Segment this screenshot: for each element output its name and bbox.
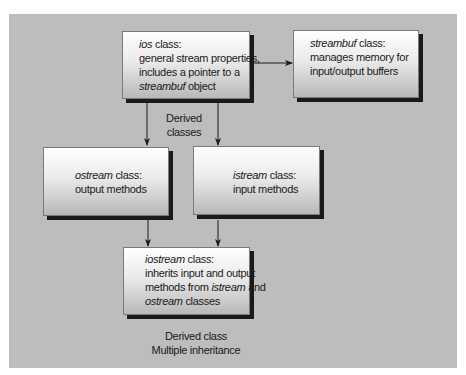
ios-desc-line: includes a pointer to a (139, 65, 260, 79)
derived-classes-label: Derived classes (160, 111, 208, 139)
ios-desc-line: general stream properties, (139, 51, 260, 65)
ios-desc-italic: streambuf (139, 80, 185, 92)
ios-desc-line: streambuf object (139, 79, 260, 93)
ostream-name: ostream (75, 169, 113, 181)
iostream-title: iostream class: (145, 252, 266, 266)
istream-name-suffix: class: (267, 169, 296, 181)
derived-classes-label-line: classes (160, 125, 208, 139)
streambuf-class-box: streambuf class: manages memory for inpu… (293, 30, 419, 98)
istream-name: istream (233, 169, 267, 181)
iostream-desc-italic: ostream (145, 295, 183, 307)
streambuf-name-suffix: class: (356, 37, 385, 49)
ostream-class-box: ostream class: output methods (43, 147, 169, 216)
streambuf-name: streambuf (310, 37, 356, 49)
ios-name: ios (139, 38, 152, 50)
bottom-label-line: Multiple inheritance (136, 343, 256, 357)
streambuf-desc-line: input/output buffers (310, 64, 409, 78)
iostream-desc-suffix: classes (183, 295, 220, 307)
ostream-desc-line: output methods (75, 182, 147, 196)
iostream-desc-italic: istream (211, 281, 245, 293)
iostream-name-suffix: class: (185, 253, 214, 265)
ios-desc-suffix: object (185, 80, 215, 92)
ios-name-suffix: class: (152, 38, 181, 50)
bottom-label-line: Derived class (136, 329, 256, 343)
iostream-name: iostream (145, 253, 185, 265)
iostream-desc-line: inherits input and output (145, 266, 266, 280)
multiple-inheritance-label: Derived class Multiple inheritance (136, 329, 256, 357)
ostream-title: ostream class: (75, 168, 147, 182)
streambuf-desc-line: manages memory for (310, 50, 409, 64)
istream-class-box: istream class: input methods (193, 146, 320, 215)
ios-class-box: ios class: general stream properties, in… (122, 31, 250, 99)
iostream-desc-line: ostream classes (145, 294, 266, 308)
iostream-desc-line: methods from istream and (145, 280, 266, 294)
istream-desc-line: input methods (233, 182, 298, 196)
ios-title: ios class: (139, 37, 260, 51)
iostream-class-box: iostream class: inherits input and outpu… (123, 247, 250, 315)
derived-classes-label-line: Derived (160, 111, 208, 125)
iostream-desc-prefix: methods from (145, 281, 211, 293)
istream-title: istream class: (233, 168, 298, 182)
streambuf-title: streambuf class: (310, 36, 409, 50)
iostream-desc-suffix: and (245, 281, 265, 293)
ostream-name-suffix: class: (113, 169, 142, 181)
